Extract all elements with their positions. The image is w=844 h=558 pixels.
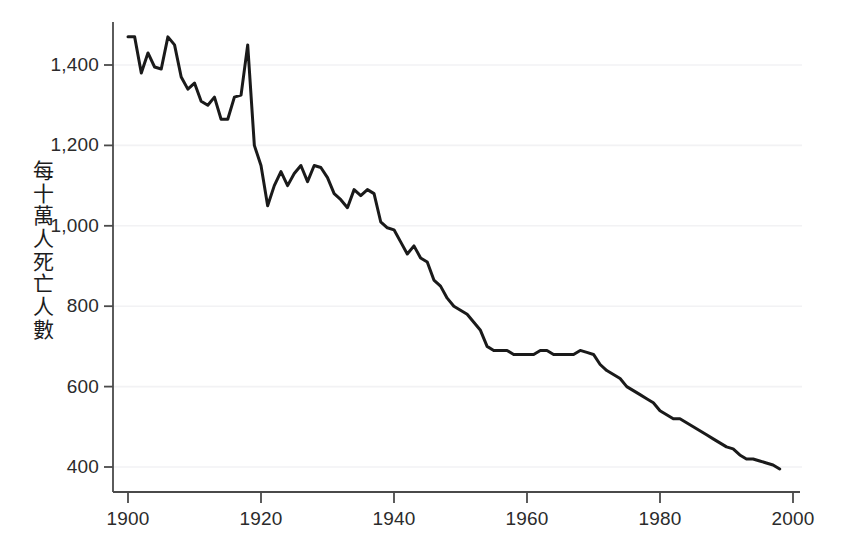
chart-plot-area [0,0,844,558]
y-axis-title-char: 十 [30,183,56,206]
y-axis-title-char: 人 [30,296,56,319]
y-axis-tick-label: 800 [67,295,99,317]
x-axis-tick-label: 1900 [106,508,149,530]
y-axis-title-char: 每 [30,160,56,183]
x-axis-tick-label: 2000 [771,508,814,530]
y-axis-title-char: 死 [30,251,56,274]
mortality-rate-line-chart: 每十萬人死亡人數 4006008001,0001,2001,400 190019… [0,0,844,558]
x-axis-tick-label: 1980 [638,508,681,530]
y-axis-title: 每十萬人死亡人數 [30,160,56,341]
y-axis-tick-label: 600 [67,376,99,398]
y-axis-tick-label: 400 [67,456,99,478]
axis-ticks [104,65,793,503]
y-axis-tick-label: 1,000 [50,215,99,237]
y-axis-title-char: 數 [30,319,56,342]
y-axis-tick-label: 1,400 [50,54,99,76]
x-axis-tick-label: 1960 [505,508,548,530]
gridlines [113,65,802,467]
mortality-series-line [128,37,780,469]
x-axis-tick-label: 1920 [239,508,282,530]
y-axis-tick-label: 1,200 [50,134,99,156]
y-axis-title-char: 亡 [30,273,56,296]
x-axis-tick-label: 1940 [372,508,415,530]
axis-lines [113,22,800,492]
